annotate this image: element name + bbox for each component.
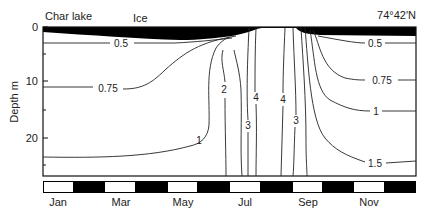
latitude-label: 74°42'N bbox=[377, 9, 416, 21]
x-label-sep: Sep bbox=[298, 196, 318, 208]
contour-label-1.5: 1.5 bbox=[368, 158, 382, 169]
x-label-may: May bbox=[173, 196, 194, 208]
contour-label-1-left: 1 bbox=[196, 135, 202, 146]
month-bar bbox=[43, 181, 416, 193]
y-ticks bbox=[43, 27, 48, 165]
contour-label-3-right: 3 bbox=[293, 115, 299, 126]
y-tick-20: 20 bbox=[26, 132, 38, 144]
contour-label-3-left: 3 bbox=[245, 120, 251, 131]
x-label-mar: Mar bbox=[112, 196, 131, 208]
y-tick-0: 0 bbox=[32, 21, 38, 33]
contour-label-0.75-left: 0.75 bbox=[98, 83, 118, 94]
contour-label-4-right: 4 bbox=[280, 94, 286, 105]
contour-label-0.75-right: 0.75 bbox=[372, 75, 392, 86]
contour-label-4-left: 4 bbox=[253, 92, 259, 103]
contour-label-0.5-left: 0.5 bbox=[114, 38, 128, 49]
x-label-jan: Jan bbox=[49, 196, 67, 208]
ice-annotation: Ice bbox=[133, 12, 148, 24]
chart-title: Char lake bbox=[45, 10, 92, 22]
contour-lines bbox=[43, 28, 416, 176]
contour-label-2: 2 bbox=[221, 84, 227, 95]
y-axis-label: Depth m bbox=[8, 81, 20, 123]
y-tick-10: 10 bbox=[26, 75, 38, 87]
x-label-nov: Nov bbox=[359, 196, 379, 208]
x-label-jul: Jul bbox=[238, 196, 252, 208]
contour-chart: Char lake Ice 74°42'N Depth m 0 10 20 bbox=[0, 0, 431, 214]
contour-label-1-right: 1 bbox=[373, 106, 379, 117]
contour-label-0.5-right: 0.5 bbox=[368, 38, 382, 49]
plot-frame bbox=[43, 27, 416, 176]
